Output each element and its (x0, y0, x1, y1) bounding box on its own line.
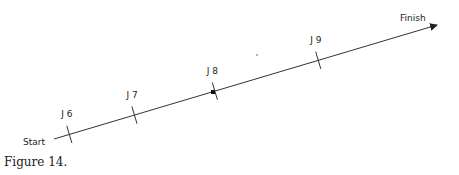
junction-label: J 6 (60, 109, 73, 119)
junction-label: J 8 (206, 66, 219, 76)
junction-label: J 7 (125, 90, 137, 100)
junction-tick (67, 126, 72, 143)
position-marker (211, 90, 215, 94)
figure-caption: Figure 14. (4, 155, 67, 169)
finish-label: Finish (400, 13, 426, 23)
junction-tick (132, 106, 137, 123)
start-label: Start (23, 137, 45, 147)
junction-label: J 9 (309, 35, 322, 45)
route-diagram: J 6J 7J 8J 9 Start Finish Figure 14. (0, 0, 459, 175)
junction-tick (316, 52, 321, 69)
stray-dot (256, 54, 258, 56)
route-line (54, 25, 437, 139)
